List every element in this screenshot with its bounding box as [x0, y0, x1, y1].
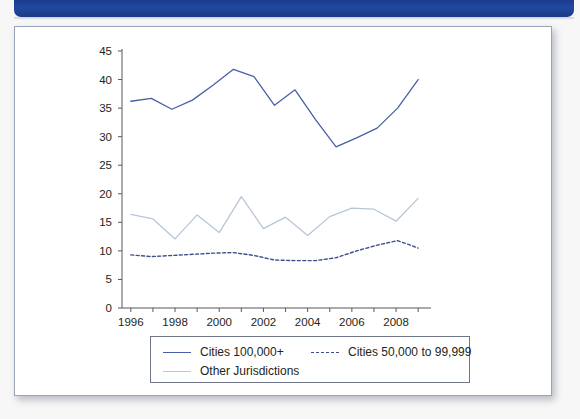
y-axis-tick-label: 45	[80, 45, 112, 57]
y-axis-tick-label: 0	[80, 302, 112, 314]
y-axis-tick-label: 35	[80, 102, 112, 114]
legend-item-1: Cities 50,000 to 99,999	[311, 343, 471, 361]
x-axis-tick-label: 1998	[153, 316, 197, 328]
legend-line-icon-0	[163, 352, 191, 353]
legend-item-0: Cities 100,000+	[163, 343, 284, 361]
legend-line-icon-1	[311, 352, 339, 353]
chart-legend: Cities 100,000+ Cities 50,000 to 99,999 …	[150, 336, 470, 383]
series-line-2	[131, 197, 418, 239]
legend-label-2: Other Jurisdictions	[200, 364, 299, 378]
chart-card: 0510152025303540451996199820002002200420…	[14, 26, 552, 396]
x-axis-tick-label: 2006	[330, 316, 374, 328]
y-axis-tick-label: 10	[80, 245, 112, 257]
series-line-0	[131, 69, 418, 147]
top-banner	[14, 0, 574, 17]
legend-item-2: Other Jurisdictions	[163, 362, 299, 380]
series-line-1	[131, 241, 418, 261]
x-axis-tick-label: 2002	[241, 316, 285, 328]
y-axis-tick-label: 5	[80, 273, 112, 285]
banner-shadow	[14, 17, 574, 20]
x-axis-tick-label: 2000	[197, 316, 241, 328]
y-axis-tick-label: 40	[80, 74, 112, 86]
legend-label-1: Cities 50,000 to 99,999	[348, 345, 471, 359]
legend-label-0: Cities 100,000+	[200, 345, 284, 359]
y-axis-tick-label: 25	[80, 159, 112, 171]
x-axis-tick-label: 1996	[109, 316, 153, 328]
y-axis-tick-label: 30	[80, 131, 112, 143]
x-axis-tick-label: 2008	[374, 316, 418, 328]
y-axis-tick-label: 20	[80, 188, 112, 200]
x-axis-tick-label: 2004	[286, 316, 330, 328]
y-axis-tick-label: 15	[80, 216, 112, 228]
legend-line-icon-2	[163, 371, 191, 372]
page-root: 0510152025303540451996199820002002200420…	[0, 0, 580, 419]
